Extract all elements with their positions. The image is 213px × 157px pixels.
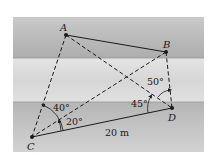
angle-label-bcd: 20°	[66, 116, 83, 127]
point-c	[30, 135, 34, 139]
far-bank-band	[13, 17, 204, 58]
label-a: A	[59, 22, 67, 33]
label-b: B	[162, 39, 170, 50]
angle-label-acd: 40°	[53, 102, 70, 113]
point-a	[64, 33, 68, 37]
angle-label-bda: 50°	[147, 76, 164, 87]
label-d: D	[167, 112, 176, 123]
point-b	[164, 50, 168, 54]
distance-label-cd: 20 m	[105, 127, 129, 138]
river-band	[13, 58, 204, 102]
point-d	[170, 106, 174, 110]
label-c: C	[27, 141, 35, 152]
angle-label-adc: 45°	[131, 98, 148, 109]
river-diagram: A B C D 40° 20° 45° 50° 20 m	[0, 0, 213, 157]
